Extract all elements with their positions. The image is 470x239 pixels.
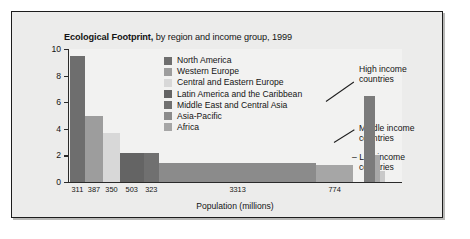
legend-item: North America <box>164 55 302 66</box>
bar <box>103 133 120 182</box>
x-axis-tick-label: 3313 <box>229 185 245 194</box>
bar <box>144 153 159 182</box>
legend-swatch-icon <box>164 79 172 87</box>
y-axis-tick <box>64 49 68 50</box>
y-axis-tick-label: 0 <box>56 177 61 187</box>
x-axis-tick-label: 323 <box>145 185 157 194</box>
chart-title: Ecological Footprint, by region and inco… <box>64 32 292 42</box>
x-axis-tick-label: 774 <box>328 185 340 194</box>
y-axis-tick <box>64 129 68 130</box>
legend-item-label: Asia-Pacific <box>177 112 222 121</box>
bar <box>316 165 353 182</box>
y-axis-tick-label: 8 <box>56 71 61 81</box>
bar <box>85 116 103 183</box>
legend-item-label: North America <box>177 56 231 65</box>
legend-item-label: Middle East and Central Asia <box>177 101 287 110</box>
legend-swatch-icon <box>164 57 172 65</box>
y-axis-tick-label: 4 <box>56 124 61 134</box>
x-axis-tick-label: 387 <box>88 185 100 194</box>
bar <box>120 153 144 182</box>
bar <box>159 163 316 182</box>
x-axis-tick-label: 350 <box>105 185 117 194</box>
annotation-high-income: High income countries <box>359 64 407 85</box>
x-axis-line <box>68 182 402 183</box>
income-bar <box>364 96 375 182</box>
annotation-high-income-line1: High income <box>359 64 407 74</box>
annotation-low-dash: – <box>352 152 357 162</box>
chart-panel: Ecological Footprint, by region and inco… <box>11 11 443 218</box>
legend-item-label: Africa <box>177 123 199 132</box>
x-axis-tick-label: 311 <box>71 185 83 194</box>
y-axis-line <box>68 49 69 182</box>
legend-item: Middle East and Central Asia <box>164 99 302 110</box>
legend-item: Central and Eastern Europe <box>164 77 302 88</box>
legend-item-label: Central and Eastern Europe <box>177 78 284 87</box>
legend-swatch-icon <box>164 101 172 109</box>
chart-title-bold: Ecological Footprint, <box>64 32 153 42</box>
annotation-high-income-line2: countries <box>359 74 407 84</box>
x-axis-tick-label: 503 <box>126 185 138 194</box>
y-axis-title-wrap: Global hectares per person <box>29 48 41 181</box>
legend-swatch-icon <box>164 90 172 98</box>
legend-item-label: Latin America and the Caribbean <box>177 90 302 99</box>
legend-item: Africa <box>164 122 302 133</box>
x-axis-title: Population (millions) <box>68 201 402 211</box>
chart-title-rest: by region and income group, 1999 <box>153 32 292 42</box>
y-axis-tick <box>64 182 68 183</box>
y-axis-tick-label: 10 <box>51 44 61 54</box>
y-axis-tick-label: 6 <box>56 97 61 107</box>
legend-swatch-icon <box>164 112 172 120</box>
chart-legend: North AmericaWestern EuropeCentral and E… <box>164 55 302 133</box>
legend-item-label: Western Europe <box>177 67 239 76</box>
y-axis-tick <box>64 155 68 156</box>
legend-swatch-icon <box>164 68 172 76</box>
chart-figure: Ecological Footprint, by region and inco… <box>0 0 470 239</box>
legend-item: Latin America and the Caribbean <box>164 88 302 99</box>
legend-item: Asia-Pacific <box>164 110 302 121</box>
y-axis-tick <box>64 102 68 103</box>
y-axis-tick <box>64 76 68 77</box>
y-axis-tick-label: 2 <box>56 150 61 160</box>
legend-item: Western Europe <box>164 66 302 77</box>
legend-swatch-icon <box>164 123 172 131</box>
bar <box>70 56 85 182</box>
